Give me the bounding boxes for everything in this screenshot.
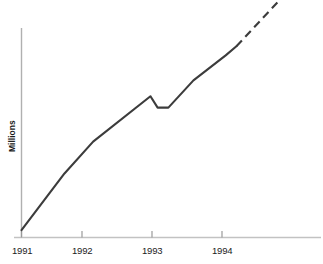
- line-chart: 1991 1992 1993 1994 Millions: [0, 0, 323, 264]
- series-actual-line: [22, 46, 237, 230]
- x-tick-label-1992: 1992: [72, 245, 92, 256]
- y-axis-title: Millions: [7, 120, 17, 152]
- series-projected-line: [236, 0, 283, 46]
- x-tick-label-1994: 1994: [212, 245, 232, 256]
- chart-container: 1991 1992 1993 1994 Millions: [0, 0, 323, 264]
- x-axis-ticks: [22, 231, 223, 238]
- x-tick-label-1991: 1991: [12, 245, 32, 256]
- x-tick-label-1993: 1993: [142, 245, 162, 256]
